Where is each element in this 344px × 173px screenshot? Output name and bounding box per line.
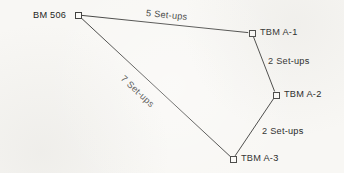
edge-label-tbma2-tbma3: 2 Set-ups (262, 126, 304, 137)
edge-tbma3-bm506 (81, 18, 230, 156)
station-marker-tbm-a-2[interactable] (273, 92, 280, 99)
station-label-tbm-a-3: TBM A-3 (241, 153, 279, 164)
station-marker-bm-506[interactable] (75, 12, 82, 19)
station-marker-tbm-a-3[interactable] (230, 156, 237, 163)
edge-label-tbma1-tbma2: 2 Set-ups (268, 56, 310, 67)
diagram-edges-layer (0, 0, 344, 173)
survey-loop-diagram: BM 506 TBM A-1 TBM A-2 TBM A-3 5 Set-ups… (0, 0, 344, 173)
station-label-bm-506: BM 506 (33, 10, 66, 21)
station-marker-tbm-a-1[interactable] (249, 30, 256, 37)
station-label-tbm-a-2: TBM A-2 (284, 89, 322, 100)
station-label-tbm-a-1: TBM A-1 (260, 27, 298, 38)
